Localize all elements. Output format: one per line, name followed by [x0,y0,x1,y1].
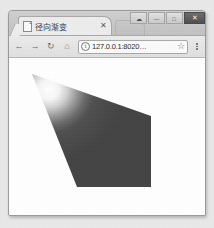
bookmark-star-icon[interactable]: ☆ [176,42,185,51]
page-viewport [9,58,205,216]
forward-button[interactable]: → [28,39,42,54]
reload-button[interactable]: ↻ [44,39,58,54]
tab-title: 径向渐变 [35,21,98,32]
page-info-icon[interactable]: i [81,42,90,51]
minimize-icon: — [154,15,160,21]
radial-gradient-canvas [9,58,205,216]
close-icon: ✕ [192,15,198,22]
maximize-button[interactable]: □ [166,12,183,24]
home-button[interactable]: ⌂ [60,39,74,54]
menu-dot-2-icon [196,46,198,48]
tab-strip: 径向渐变 ✕ ☁ — □ ✕ [9,11,205,36]
minimize-button[interactable]: — [148,12,165,24]
reload-icon: ↻ [47,42,55,51]
maximize-icon: □ [173,15,177,21]
arrow-left-icon: ← [15,42,24,51]
menu-dot-1-icon [196,43,198,45]
page-favicon-icon [23,21,32,32]
menu-dot-3-icon [196,48,198,50]
minimize-to-tray-button[interactable]: ☁ [130,12,147,24]
arrow-right-icon: → [31,42,40,51]
browser-window: 径向渐变 ✕ ☁ — □ ✕ ← [8,10,206,216]
tray-icon: ☁ [136,15,142,21]
browser-tab-active[interactable]: 径向渐变 ✕ [18,16,112,35]
url-input[interactable]: 127.0.0.1:8020… [92,42,176,51]
back-button[interactable]: ← [12,39,26,54]
window-controls: ☁ — □ ✕ [130,12,205,24]
browser-menu-button[interactable] [192,43,202,50]
browser-toolbar: ← → ↻ ⌂ i 127.0.0.1:8020… ☆ [9,36,205,58]
close-button[interactable]: ✕ [184,12,205,24]
screenshot-page: 径向渐变 ✕ ☁ — □ ✕ ← [0,0,214,228]
address-bar[interactable]: i 127.0.0.1:8020… ☆ [78,40,188,54]
radial-gradient-polygon [32,74,151,187]
home-icon: ⌂ [64,42,69,51]
tab-close-icon[interactable]: ✕ [98,22,107,30]
